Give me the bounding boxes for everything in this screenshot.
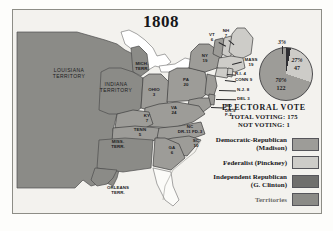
pie-label-federalist-votes: 47 (287, 65, 307, 72)
map-label-new-york: NY 19 (197, 54, 213, 63)
pie-label-dem-rep-pct: 70% (270, 77, 292, 84)
legend-swatch-independent-republican (292, 175, 319, 188)
map-label-north-carolina: NC DR-11 FD-3 (173, 125, 207, 134)
legend-label-federalist: Federalist (Pinckney) (223, 159, 292, 167)
legend-label-democratic-republican: Democratic-Republican (Madison) (216, 136, 292, 152)
legend-swatch-territories (292, 193, 319, 206)
map-label-virginia: VA 24 (165, 106, 183, 115)
pie-label-federalist-pct: 27% (286, 57, 308, 64)
pie-slices (259, 47, 313, 101)
map-label-pennsylvania: PA 20 (177, 78, 195, 87)
legend-swatch-democratic-republican (292, 138, 319, 151)
map-label-michigan-territory: MICH. TERR. (129, 62, 155, 71)
region-rhode-island (227, 68, 233, 77)
figure-frame: 1808 LOUISIANA TERRITORY INDIANA TERRITO… (12, 9, 322, 214)
legend-label-territories: Territories (255, 196, 292, 204)
page-title: 1808 (121, 12, 201, 32)
map-label-louisiana-territory: LOUISIANA TERRITORY (27, 68, 111, 79)
not-voting-line: NOT VOTING: 1 (209, 121, 319, 129)
pie-leader-line-minor-slice (282, 46, 283, 54)
total-voting-line: TOTAL VOTING: 175 (209, 113, 319, 121)
pie-label-independent-pct: 3% (272, 39, 292, 46)
map-legend: Democratic-Republican (Madison) Federali… (171, 136, 319, 210)
legend-label-independent-republican: Independent Republican (G. Clinton) (213, 173, 292, 189)
map-label-vermont: VT 6 (205, 33, 219, 42)
legend-item-federalist: Federalist (Pinckney) (171, 156, 319, 169)
map-label-orleans-territory: ORLEANS TERR. (101, 186, 135, 195)
electoral-map-figure: 1808 LOUISIANA TERRITORY INDIANA TERRITO… (0, 0, 333, 231)
map-label-ohio: OHIO 3 (143, 88, 165, 97)
map-label-new-hampshire: NH 7 (219, 29, 233, 38)
map-label-indiana-territory: INDIANA TERRITORY (89, 82, 143, 93)
electoral-vote-heading: ELECTORAL VOTE (209, 103, 319, 112)
map-label-new-jersey: N.J. 8 (237, 88, 257, 93)
map-label-kentucky: KY 7 (139, 114, 155, 123)
pie-label-dem-rep-votes: 122 (270, 85, 292, 92)
electoral-vote-summary: ELECTORAL VOTE TOTAL VOTING: 175 NOT VOT… (209, 103, 319, 129)
legend-swatch-federalist (292, 156, 319, 169)
legend-item-independent-republican: Independent Republican (G. Clinton) (171, 173, 319, 189)
legend-item-democratic-republican: Democratic-Republican (Madison) (171, 136, 319, 152)
map-label-mississippi-territory: MISS. TERR. (105, 140, 131, 149)
map-label-tennessee: TENN 5 (127, 128, 153, 137)
map-label-rhode-island: R.I. 4 (235, 72, 255, 77)
legend-item-territories: Territories (171, 193, 319, 206)
electoral-vote-pie-chart: 3% 27% 47 70% 122 (256, 40, 318, 102)
